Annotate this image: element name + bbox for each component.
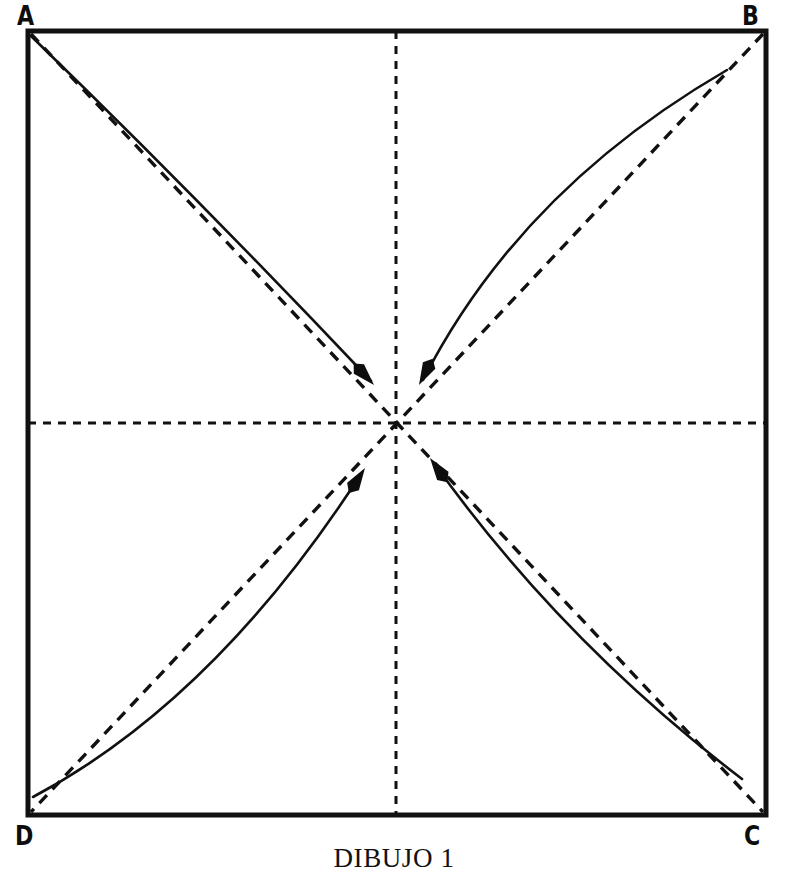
corner-label-b: B <box>742 2 758 29</box>
origami-diagram <box>0 0 788 883</box>
origami-figure: A B C D DIBUJO 1 <box>0 0 788 883</box>
figure-caption: DIBUJO 1 <box>0 843 788 874</box>
corner-label-a: A <box>17 2 34 29</box>
